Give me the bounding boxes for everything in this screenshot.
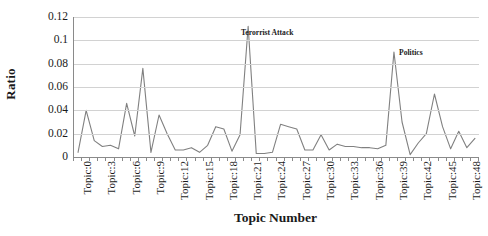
x-tick-label: Topic:36 xyxy=(373,161,385,209)
y-tick-label: 0.04 xyxy=(22,104,68,116)
y-axis-tick-labels: 00.020.040.060.080.10.12 xyxy=(18,0,68,236)
y-tick-label: 0.12 xyxy=(22,11,68,23)
x-tick-label: Topic:3 xyxy=(105,161,117,209)
x-tick-label: Topic:48 xyxy=(470,161,482,209)
x-axis-title: Topic Number xyxy=(73,210,478,226)
x-tick-label: Topic:30 xyxy=(324,161,336,209)
gridline-0.02 xyxy=(74,134,479,135)
peak-annotation: Politics xyxy=(399,48,423,57)
gridline-0.08 xyxy=(74,64,479,65)
y-tick-label: 0.02 xyxy=(22,128,68,140)
x-tick-label: Topic:0 xyxy=(81,161,93,209)
ratio-vs-topic-line-chart: Ratio 00.020.040.060.080.10.12 Topic:0To… xyxy=(0,0,488,236)
x-axis-title-text: Topic Number xyxy=(234,210,317,225)
y-tick-label: 0 xyxy=(22,151,68,163)
x-tick-label: Topic:42 xyxy=(421,161,433,209)
x-tick-label: Topic:21 xyxy=(251,161,263,209)
x-tick-label: Topic:15 xyxy=(203,161,215,209)
x-tick-label: Topic:9 xyxy=(154,161,166,209)
gridline-0.1 xyxy=(74,40,479,41)
gridline-0.12 xyxy=(74,17,479,18)
y-tick-label: 0.08 xyxy=(22,58,68,70)
x-tick-label: Topic:6 xyxy=(130,161,142,209)
plot-area xyxy=(73,17,478,157)
y-tick-label: 0.1 xyxy=(22,34,68,46)
gridline-0.06 xyxy=(74,87,479,88)
x-tick-label: Topic:27 xyxy=(300,161,312,209)
x-tick-label: Topic:45 xyxy=(446,161,458,209)
x-tick-label: Topic:33 xyxy=(348,161,360,209)
y-tick-label: 0.06 xyxy=(22,81,68,93)
x-tick-label: Topic:39 xyxy=(397,161,409,209)
peak-annotation: Terorrist Attack xyxy=(241,28,294,37)
x-tick-label: Topic:18 xyxy=(227,161,239,209)
x-tick-label: Topic:24 xyxy=(275,161,287,209)
gridline-0.04 xyxy=(74,110,479,111)
y-axis-title-text: Ratio xyxy=(3,68,19,99)
x-tick-label: Topic:12 xyxy=(178,161,190,209)
x-axis-tick-labels: Topic:0Topic:3Topic:6Topic:9Topic:12Topi… xyxy=(73,161,478,209)
